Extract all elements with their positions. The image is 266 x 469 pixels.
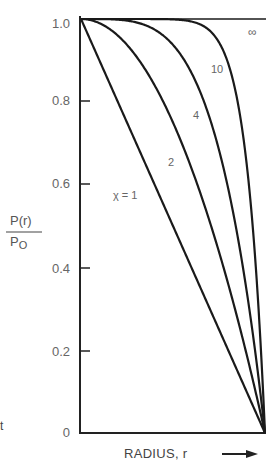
ytick-label-0: 0: [30, 425, 70, 440]
ylabel-numerator: P(r): [10, 213, 32, 228]
ylabel-den-main: P: [10, 234, 19, 249]
ytick-label-0.8: 0.8: [30, 93, 70, 108]
ytick-label-1.0: 1.0: [30, 16, 70, 31]
y-ticks: [80, 101, 90, 351]
stray-glyph: t: [0, 419, 3, 433]
curves: [81, 19, 266, 433]
arrow-right-icon: [222, 450, 258, 458]
curve-label-infinity: ∞: [248, 25, 257, 39]
ylabel-denominator: PO: [10, 234, 27, 249]
curve-label-4: 4: [193, 109, 199, 121]
ytick-label-0.6: 0.6: [30, 176, 70, 191]
ytick-label-0.2: 0.2: [30, 344, 70, 359]
curve-chi-1: [81, 19, 265, 433]
curve-label-chi-1: χ = 1: [113, 189, 137, 201]
ylabel-den-sub: O: [19, 239, 28, 251]
curve-label-2: 2: [168, 156, 174, 168]
line-chart: [0, 0, 266, 469]
ytick-label-0.4: 0.4: [30, 261, 70, 276]
curve-label-10: 10: [211, 63, 223, 75]
x-axis-label: RADIUS, r: [124, 446, 187, 461]
